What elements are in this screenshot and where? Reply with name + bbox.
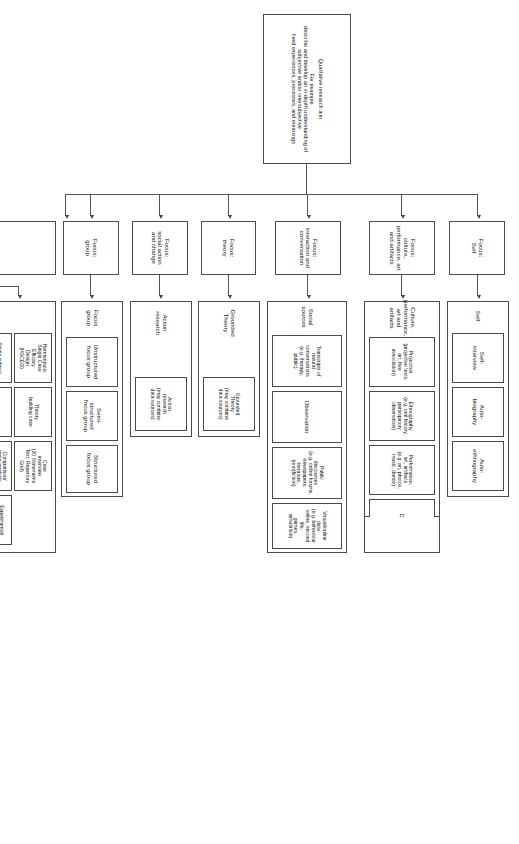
method-box-single-subject: Single subject or n=1 case study	[0, 333, 12, 383]
method-text: Grounded Theory (may combine data source…	[218, 388, 241, 420]
root-line-2: For example	[309, 73, 315, 104]
category-text-social-sources: Social sources	[300, 303, 314, 331]
focus-to-category-self	[477, 275, 478, 296]
method-text: Single subject or n=1 case study	[0, 342, 2, 374]
focus-box-individuals: Focus: individuals	[0, 221, 56, 275]
focus-to-category-theory	[228, 275, 229, 296]
method-box-projection: Projection (projective tests, art, free …	[369, 337, 435, 387]
category-arrow-interaction	[307, 295, 311, 299]
branch-line-culture	[401, 194, 402, 216]
method-text: Auto- biography	[471, 399, 485, 426]
category-text-self: Self	[475, 311, 482, 322]
category-text-focus-group: Focus group	[85, 303, 99, 333]
method-box-transcripts: Transcripts of natural conversations (e.…	[272, 335, 342, 387]
method-text: Auto- ethnography	[471, 449, 485, 483]
method-box-experimental-case-study: Experimental case study (see quantitativ…	[0, 495, 12, 545]
category-arrow-theory	[228, 295, 232, 299]
category-label-case-study: Case study	[0, 303, 54, 329]
method-text: Structured focus group	[85, 453, 99, 485]
focus-to-category-action	[159, 275, 160, 296]
method-text: Unstructured focus group	[85, 345, 99, 380]
root-connector	[306, 164, 307, 194]
method-box-self-interview: Self- interview	[452, 333, 504, 383]
category-label-action-research: Action research	[132, 303, 190, 343]
focus-to-category-culture	[401, 275, 402, 296]
method-box-unstructured-focus-group: Unstructured focus group	[66, 337, 118, 387]
category-text-culture: Culture, performance, art and artifacts	[388, 300, 415, 336]
method-box-case-interview: Case interview (20 Statements Test; Repe…	[14, 441, 52, 491]
category-arrow-self	[477, 295, 481, 299]
focus-to-category-group	[90, 275, 91, 296]
method-text: Virtual/online data (e.g. behaviour onli…	[287, 506, 327, 546]
method-text: Theory building case	[27, 397, 38, 427]
branch-arrow-action	[159, 215, 163, 219]
method-box-action-research: Action research (may combine data source…	[135, 377, 187, 431]
focus-label-self: Focus: Self	[470, 239, 484, 257]
focus-label-culture: Focus: culture, performance, art and art…	[388, 226, 415, 271]
method-text: Transcripts of natural conversations (e.…	[293, 338, 322, 384]
branch-arrow-group	[90, 215, 94, 219]
focus-label-social-action: Focus: social action and change	[150, 231, 170, 265]
focus-label-group: Focus: group	[84, 239, 98, 257]
root-line-1: Qualitative research aim	[317, 59, 323, 119]
method-box-structured-focus-group: Structured focus group	[66, 445, 118, 493]
category-label-self: Self	[449, 303, 507, 329]
method-text: Performance, art, artifacts (e.g. art, p…	[391, 451, 414, 488]
method-box-ethnography: Ethnography (e.g. oral history, particip…	[369, 391, 435, 441]
method-box-narrative-case-study: Narrative case study	[0, 387, 12, 437]
focus-box-theory: Focus: theory	[201, 221, 256, 275]
focus-box-interaction: Focus: interaction and conversation	[275, 221, 341, 275]
branch-line-group	[90, 194, 91, 216]
branch-arrow-self	[477, 215, 481, 219]
method-text: Projection (projective tests, art, free …	[391, 343, 414, 380]
category-group-culture-ext	[364, 517, 440, 553]
focus-to-category-interaction	[307, 275, 308, 296]
branch-arrow-theory	[228, 215, 232, 219]
root-aim-box: Qualitative research aim For example des…	[263, 14, 351, 164]
category-text-action-research: Action research	[154, 311, 168, 335]
branch-line-action	[159, 194, 160, 216]
method-box-hsced: Hermeneutic Single Case Efficacy Design …	[14, 333, 52, 383]
category-arrow-group	[90, 295, 94, 299]
branch-line-individuals	[65, 194, 66, 216]
focus-box-social-action: Focus: social action and change	[132, 221, 188, 275]
category-label-culture: Culture, performance, art and artifacts	[366, 303, 438, 333]
root-line-4: subjective and/or intersubjective	[297, 49, 303, 129]
branch-arrow-culture	[401, 215, 405, 219]
method-text: Observation	[304, 401, 311, 434]
focus-label-interaction: Focus: interaction and conversation	[298, 228, 318, 268]
method-text: Hermeneutic Single Case Efficacy Design …	[19, 344, 48, 373]
trunk-line	[66, 194, 478, 195]
method-box-grounded-theory: Grounded Theory (may combine data source…	[203, 377, 255, 431]
root-line-3: describe and develop an in-depth underst…	[303, 26, 309, 152]
method-box-observation: Observation	[272, 391, 342, 443]
method-box-autoethnography: Auto- ethnography	[452, 441, 504, 491]
method-text: Action research (may combine data source…	[150, 388, 173, 420]
branch-arrow-individuals	[65, 215, 69, 219]
category-text-grounded-theory: Grounded Theory	[222, 309, 236, 336]
category-label-social-sources: Social sources	[269, 303, 345, 331]
individuals-split-vert	[0, 286, 19, 287]
method-text: Case interview (20 Statements Test; Repe…	[19, 449, 48, 484]
focus-box-group: Focus: group	[63, 221, 119, 275]
branch-line-theory	[228, 194, 229, 216]
method-box-semi-structured-focus-group: Semi- structured focus group	[66, 391, 118, 441]
method-box-autobiography: Auto- biography	[452, 387, 504, 437]
method-box-theory-building-case: Theory building case	[14, 387, 52, 437]
branch-arrow-interaction	[307, 215, 311, 219]
category-label-focus-group: Focus group	[63, 303, 121, 333]
category-label-grounded-theory: Grounded Theory	[200, 303, 258, 343]
method-box-performance-art: Performance, art, artifacts (e.g. art, p…	[369, 445, 435, 495]
root-line-5: lived experiences, processes, and meanin…	[290, 34, 296, 144]
method-text: Public discourses (e.g. online forums, n…	[290, 451, 324, 495]
focus-box-culture: Focus: culture, performance, art and art…	[369, 221, 435, 275]
method-text: Ethnography (e.g. oral history, particip…	[391, 397, 414, 435]
method-text: Semi- structured focus group	[82, 400, 102, 432]
method-box-virtual-online: Virtual/online data (e.g. behaviour onli…	[272, 503, 342, 549]
focus-box-self: Focus: Self	[449, 221, 505, 275]
category-arrow-culture	[401, 295, 405, 299]
branch-line-self	[477, 194, 478, 216]
category-arrow-action	[159, 295, 163, 299]
diagram-canvas: Qualitative research aim For example des…	[0, 0, 519, 844]
method-box-comparison-meta-analysis: Comparison/ meta-analysis of matched or …	[0, 441, 12, 491]
